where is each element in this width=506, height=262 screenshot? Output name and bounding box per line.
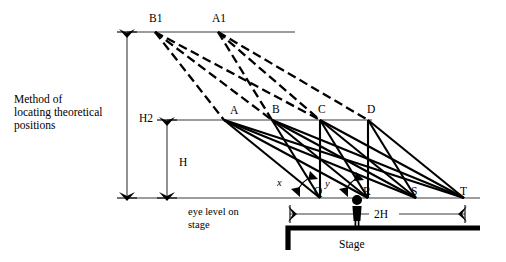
eye-level-line-2: stage [188, 219, 210, 230]
person-head [353, 196, 361, 204]
label-q: Q [314, 185, 323, 197]
label-t: T [460, 185, 467, 197]
stage-caption: Stage [339, 238, 365, 251]
h-dimension: H [157, 117, 187, 201]
caption-line-1: Method of [14, 93, 62, 105]
angle-y-arrow-start [339, 187, 348, 197]
angle-y-label: y [324, 178, 330, 189]
label-a: A [230, 104, 239, 116]
person-body [352, 206, 361, 221]
h2-label: H2 [139, 112, 153, 124]
caption-text: Method of locating theoretical positions [14, 93, 102, 132]
perspective-diagram: H2 H x y 2H [0, 0, 506, 262]
diagram-root: H2 H x y 2H [0, 0, 506, 262]
node-labels-top: B1 A1 [149, 12, 226, 24]
angle-x-arrow-end [308, 171, 318, 180]
caption-line-2: locating theoretical [14, 106, 102, 119]
eye-level-caption: eye level on stage [188, 206, 239, 230]
label-a1: A1 [212, 12, 226, 24]
h-arrow-top [159, 117, 175, 126]
angle-x-label: x [276, 177, 282, 188]
angle-x-arrow-start [291, 187, 300, 197]
label-c: C [318, 103, 326, 115]
solid-line-a-q [224, 120, 320, 198]
eye-level-line-1: eye level on [188, 206, 239, 217]
dashed-sight-lines [155, 32, 368, 120]
solid-line-d-s [368, 120, 416, 198]
h-label: H [179, 156, 187, 168]
stage-platform [288, 228, 480, 250]
label-b: B [272, 103, 280, 115]
person-figure [352, 196, 361, 228]
caption-line-3: positions [14, 119, 56, 132]
two-h-dimension: 2H [288, 205, 467, 223]
label-d: D [367, 103, 375, 115]
solid-sight-lines [224, 120, 464, 198]
label-s: S [411, 185, 417, 197]
stage-label: Stage [339, 238, 365, 251]
label-r: R [363, 185, 371, 197]
label-b1: B1 [149, 12, 163, 24]
h2-arrow-top [119, 29, 135, 38]
stage-outline [288, 228, 480, 250]
two-h-label: 2H [374, 208, 388, 220]
h2-dimension: H2 [117, 29, 153, 201]
dashed-line-a1-b [218, 32, 272, 120]
